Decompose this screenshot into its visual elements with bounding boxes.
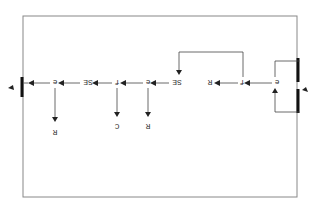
node-r-branch-1: R — [145, 122, 150, 131]
input-bar-top — [297, 89, 300, 113]
input-arrow-icon — [302, 87, 308, 92]
node-c-branch: C — [114, 122, 119, 131]
node-se-2: SE — [83, 78, 93, 87]
flow-diagram: e f R SE e R f C — [0, 0, 318, 203]
node-r-branch-2: R — [52, 128, 57, 137]
arrowhead — [114, 112, 120, 117]
node-r-top: R — [207, 78, 212, 87]
wire-bar-to-e1 — [275, 91, 300, 112]
node-e-3: e — [52, 78, 57, 87]
arrowhead — [52, 117, 58, 122]
node-f-1: f — [239, 78, 244, 87]
wire-e1-to-bar — [275, 61, 300, 77]
diagram-frame — [23, 16, 297, 197]
arrowhead — [28, 80, 34, 86]
arrowhead — [176, 70, 182, 75]
node-e-1: e — [274, 78, 279, 87]
arrowhead — [58, 80, 64, 86]
input-bar-bottom — [297, 58, 300, 82]
node-f-2: f — [114, 78, 119, 87]
arrowhead — [272, 88, 278, 93]
arrowhead — [214, 80, 220, 86]
arrowhead — [145, 112, 151, 117]
output-arrow-icon — [8, 85, 14, 90]
arrowhead — [120, 80, 126, 86]
node-e-2: e — [145, 78, 150, 87]
output-bar — [21, 77, 24, 97]
wire-f1-loop-se — [179, 52, 243, 77]
node-se-1: SE — [172, 78, 182, 87]
